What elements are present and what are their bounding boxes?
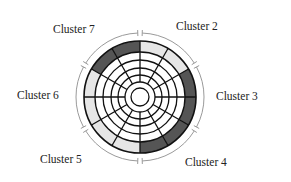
label-cluster-5: Cluster 5: [40, 154, 82, 166]
label-cluster-7: Cluster 7: [53, 24, 95, 36]
cluster-5-bracket-tick: [83, 129, 88, 132]
label-cluster-4: Cluster 4: [185, 157, 227, 169]
label-cluster-2: Cluster 2: [176, 21, 218, 33]
cluster-2-bracket-tick: [192, 61, 197, 64]
ring-6: [131, 88, 149, 106]
cluster-3-bracket-arc: [197, 67, 204, 127]
label-cluster-3: Cluster 3: [216, 91, 258, 103]
cluster-4-bracket-tick: [192, 129, 197, 132]
label-cluster-6: Cluster 6: [17, 90, 59, 102]
cluster-6-bracket-arc: [76, 67, 83, 127]
cluster-7-bracket-tick: [83, 61, 88, 64]
ring-5: [125, 82, 155, 112]
